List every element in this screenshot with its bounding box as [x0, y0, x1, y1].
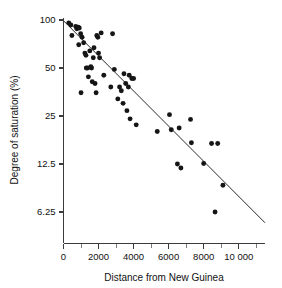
- data-point: [119, 88, 124, 93]
- data-point: [97, 55, 102, 60]
- data-point: [178, 166, 183, 171]
- data-point: [89, 66, 94, 71]
- trend-line: [64, 21, 266, 223]
- x-tick-label: 0: [61, 251, 66, 262]
- x-axis-title: Distance from New Guinea: [104, 272, 224, 283]
- data-point: [101, 73, 106, 78]
- data-point: [177, 126, 182, 131]
- data-point: [169, 127, 174, 132]
- x-tick-label: 10 000: [224, 251, 253, 262]
- data-point: [209, 141, 214, 146]
- data-point: [68, 23, 73, 28]
- x-axis-tick-labels: 0200040006000800010 000: [61, 251, 253, 262]
- data-point: [80, 35, 85, 40]
- y-tick-label: 50: [45, 62, 56, 73]
- data-point: [220, 183, 225, 188]
- data-point: [167, 112, 172, 117]
- data-point: [87, 48, 92, 53]
- chart-canvas: 100502512.56.25 0200040006000800010 000 …: [0, 0, 282, 288]
- data-point: [69, 33, 74, 38]
- data-point: [108, 85, 113, 90]
- x-tick-label: 6000: [158, 251, 179, 262]
- data-point: [128, 116, 133, 121]
- y-axis-title: Degree of saturation (%): [9, 76, 20, 185]
- data-point: [79, 90, 84, 95]
- y-tick-label: 100: [40, 14, 56, 25]
- data-point: [126, 85, 131, 90]
- data-point: [131, 76, 136, 81]
- data-point: [99, 30, 104, 35]
- x-tick-label: 8000: [193, 251, 214, 262]
- data-point: [81, 40, 86, 45]
- x-tick-label: 2000: [88, 251, 109, 262]
- data-point: [188, 117, 193, 122]
- data-point: [96, 51, 101, 56]
- data-point: [201, 161, 206, 166]
- data-point: [86, 74, 91, 79]
- data-point: [76, 42, 81, 47]
- data-point: [93, 81, 98, 86]
- y-axis-ticks: [59, 20, 64, 212]
- data-point: [83, 53, 88, 58]
- x-tick-label: 4000: [123, 251, 144, 262]
- data-point: [94, 90, 99, 95]
- data-point: [115, 96, 120, 101]
- data-point: [213, 210, 218, 215]
- regression-line: [64, 21, 266, 223]
- axes-group: [64, 18, 266, 244]
- data-points-group: [66, 20, 225, 214]
- data-point: [189, 140, 194, 145]
- data-point: [124, 108, 129, 113]
- y-axis-tick-labels: 100502512.56.25: [37, 14, 56, 217]
- y-tick-label: 6.25: [37, 206, 56, 217]
- data-point: [175, 162, 180, 167]
- data-point: [122, 71, 127, 76]
- data-point: [121, 101, 126, 106]
- data-point: [215, 141, 220, 146]
- data-point: [95, 35, 100, 40]
- data-point: [134, 122, 139, 127]
- data-point: [112, 67, 117, 72]
- y-tick-label: 25: [45, 110, 56, 121]
- y-tick-label: 12.5: [37, 158, 56, 169]
- data-point: [110, 31, 115, 36]
- data-point: [77, 26, 82, 31]
- data-point: [92, 45, 97, 50]
- scatter-plot-figure: 100502512.56.25 0200040006000800010 000 …: [0, 0, 282, 288]
- data-point: [91, 55, 96, 60]
- data-point: [155, 129, 160, 134]
